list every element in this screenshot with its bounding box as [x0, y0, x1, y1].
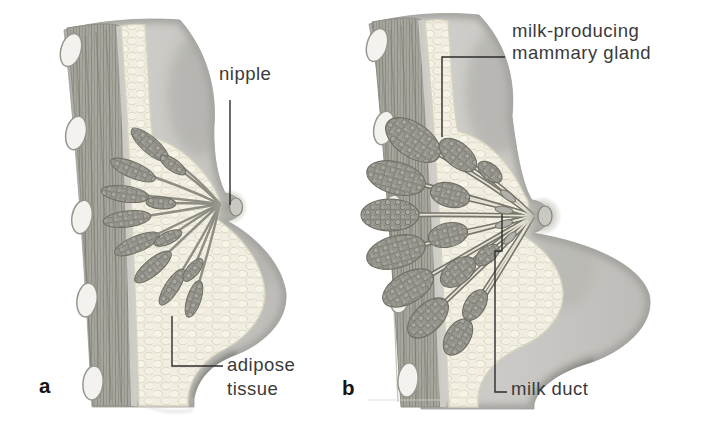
label-adipose-line1: adipose — [227, 353, 295, 377]
label-adipose-tissue: adipose tissue — [227, 353, 295, 401]
panel-letter-b: b — [342, 376, 355, 400]
label-mammary-gland: milk-producing mammary gland — [512, 20, 651, 64]
illustration-panel-b — [361, 13, 650, 409]
figure-canvas: nipple milk-producing mammary gland adip… — [0, 0, 713, 423]
label-mammary-gland-line2: mammary gland — [512, 42, 651, 64]
nipple-b — [538, 206, 552, 226]
label-mammary-gland-line1: milk-producing — [512, 20, 651, 42]
nipple-a — [230, 198, 243, 216]
panel-letter-a: a — [39, 374, 51, 398]
label-milk-duct: milk duct — [511, 378, 589, 400]
label-nipple: nipple — [219, 63, 271, 85]
label-adipose-line2: tissue — [227, 377, 295, 401]
